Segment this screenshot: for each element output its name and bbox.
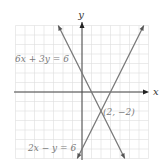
intersection-label: (2, −2) [103, 107, 135, 117]
line2-label: 2x − y = 6 [27, 143, 76, 153]
line1-label: 6x + 3y = 6 [15, 54, 69, 64]
x-axis-label: x [153, 86, 159, 97]
coordinate-plane: y x 6x + 3y = 6 2x − y = 6 (2, −2) [0, 0, 161, 168]
y-axis-label: y [77, 9, 84, 20]
x-axis-arrow-icon [143, 90, 149, 95]
y-axis-arrow-icon [80, 22, 85, 28]
